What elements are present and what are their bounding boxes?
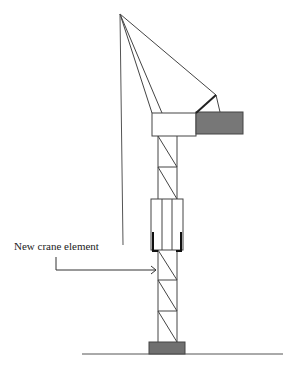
jib-rigging	[120, 14, 220, 113]
annotation-label: New crane element	[14, 240, 99, 252]
tower-mast-lower	[158, 250, 177, 342]
crane-diagram: New crane element	[0, 0, 293, 367]
cab-box	[152, 113, 196, 136]
hoist-line	[120, 14, 123, 245]
tower-mast-upper	[158, 136, 177, 199]
counterweight	[196, 112, 243, 134]
base-block	[149, 342, 185, 354]
annotation-arrow	[56, 257, 156, 274]
jib-strut	[196, 95, 216, 113]
climbing-frame	[151, 199, 183, 251]
